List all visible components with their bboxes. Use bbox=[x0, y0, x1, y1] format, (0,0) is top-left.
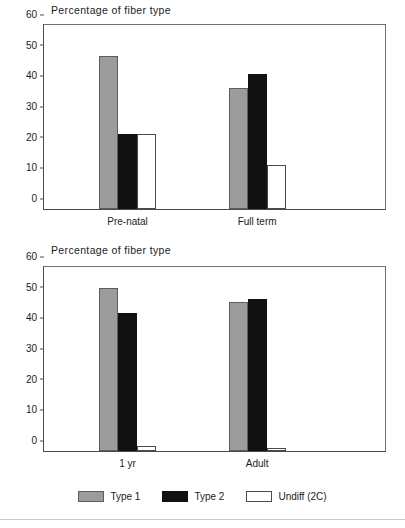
x-axis-tick-label: Adult bbox=[246, 458, 269, 469]
bar-type-1-full-term bbox=[229, 88, 248, 209]
plot-area-bottom: 01020304050601 yrAdult bbox=[43, 266, 386, 452]
plot-area-top: 0102030405060Pre-natalFull term bbox=[43, 24, 386, 210]
page-divider-rule bbox=[0, 519, 405, 520]
y-axis-tick-label: 0 bbox=[31, 435, 44, 446]
bar-type-1-1-yr bbox=[99, 288, 118, 451]
y-axis-tick-label: 30 bbox=[26, 343, 44, 354]
y-axis-tick-label: 60 bbox=[26, 251, 44, 262]
y-axis-tick-label: 10 bbox=[26, 162, 44, 173]
legend: Type 1Type 2Undiff (2C) bbox=[0, 486, 405, 506]
bar-undiff-2c-pre-natal bbox=[137, 134, 156, 209]
bar-type-2-full-term bbox=[248, 74, 267, 209]
chart-title-top: Percentage of fiber type bbox=[51, 4, 171, 16]
y-axis-tick-label: 20 bbox=[26, 373, 44, 384]
x-axis-tick-label: 1 yr bbox=[119, 458, 136, 469]
legend-item: Undiff (2C) bbox=[246, 491, 326, 502]
bar-undiff-2c-1-yr bbox=[137, 446, 156, 451]
outlined-white-swatch bbox=[246, 491, 272, 502]
y-axis-tick-label: 50 bbox=[26, 39, 44, 50]
bar-type-1-adult bbox=[229, 302, 248, 451]
bar-type-2-pre-natal bbox=[118, 134, 137, 209]
chart-panel-bottom: Percentage of fiber type 01020304050601 … bbox=[0, 240, 405, 480]
bar-undiff-2c-adult bbox=[267, 448, 286, 451]
y-axis-tick-label: 40 bbox=[26, 70, 44, 81]
x-axis-tick-label: Pre-natal bbox=[107, 216, 148, 227]
y-axis-tick-label: 60 bbox=[26, 9, 44, 20]
filled-black-swatch bbox=[162, 491, 188, 502]
bar-type-2-adult bbox=[248, 299, 267, 451]
y-axis-tick-label: 20 bbox=[26, 131, 44, 142]
bar-type-1-pre-natal bbox=[99, 56, 118, 209]
y-axis-tick-label: 10 bbox=[26, 404, 44, 415]
figure-container: Percentage of fiber type 0102030405060Pr… bbox=[0, 0, 405, 528]
y-axis-tick-label: 50 bbox=[26, 281, 44, 292]
bar-undiff-2c-full-term bbox=[267, 165, 286, 209]
bar-type-2-1-yr bbox=[118, 313, 137, 451]
y-axis-tick-label: 0 bbox=[31, 193, 44, 204]
legend-item-label: Type 1 bbox=[110, 491, 140, 502]
y-axis-tick-label: 40 bbox=[26, 312, 44, 323]
chart-panel-top: Percentage of fiber type 0102030405060Pr… bbox=[0, 0, 405, 238]
chart-title-bottom: Percentage of fiber type bbox=[51, 244, 171, 256]
filled-gray-swatch bbox=[78, 491, 104, 502]
y-axis-tick-label: 30 bbox=[26, 101, 44, 112]
legend-item: Type 2 bbox=[162, 491, 224, 502]
x-axis-tick-label: Full term bbox=[238, 216, 277, 227]
legend-item-label: Undiff (2C) bbox=[278, 491, 326, 502]
legend-item-label: Type 2 bbox=[194, 491, 224, 502]
legend-item: Type 1 bbox=[78, 491, 140, 502]
